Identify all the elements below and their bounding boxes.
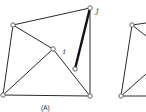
edge-tl-i [13,25,53,49]
node-j [88,6,92,10]
bold-edge-j-m [75,8,90,69]
node-m [73,67,77,71]
node-tl [11,23,15,27]
node-br [88,94,92,98]
edge-b-tl-bl [121,25,132,96]
node-i [51,47,55,51]
edge-tl-j [13,8,90,25]
edge-i-bl [3,49,53,95]
node-b-bl [119,94,123,98]
edge-b-bl-diag [121,74,146,96]
label-i: i [63,47,66,56]
edge-bl-br [3,95,90,96]
node-b-tl [130,23,134,27]
graph-diagram: j i (A) [0,0,146,112]
label-j: j [94,6,99,15]
node-bl [1,93,5,97]
edge-i-br [53,49,90,96]
edge-tl-bl [3,25,13,95]
edge-b-tl-diag [132,25,146,36]
caption-a: (A) [41,104,50,112]
